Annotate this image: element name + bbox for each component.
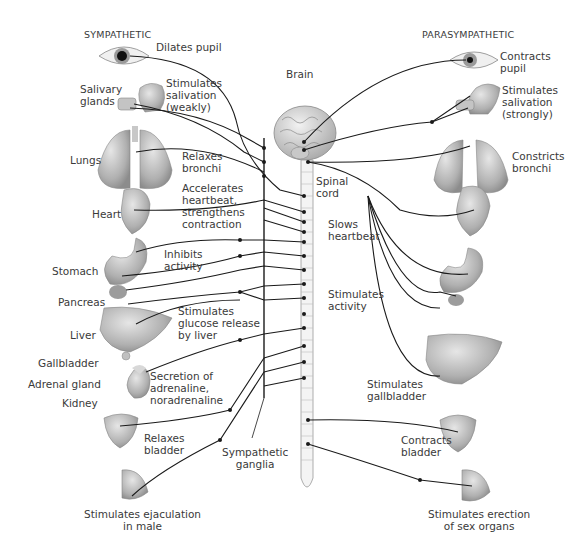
inhibits-activity-label: Inhibits activity — [164, 248, 203, 272]
brain-icon — [274, 106, 336, 160]
relaxes-bronchi-label: Relaxes bronchi — [182, 150, 222, 174]
heart-left-icon — [121, 189, 150, 234]
liver-label: Liver — [70, 329, 96, 341]
salivation-strongly-label: Stimulates salivation (strongly) — [502, 84, 558, 120]
sympathetic-header: SYMPATHETIC — [84, 29, 151, 40]
contracts-bladder-label: Contracts bladder — [401, 434, 452, 458]
spinal-cord-icon — [301, 160, 313, 487]
heart-label: Heart — [92, 208, 121, 220]
kidney-label: Kidney — [62, 397, 98, 409]
stomach-label: Stomach — [52, 265, 98, 277]
slows-heartbeat-label: Slows heartbeat — [328, 218, 380, 242]
liver-left-icon — [100, 307, 172, 360]
gallbladder-label: Gallbladder — [38, 357, 99, 369]
bladder-left-icon — [104, 414, 138, 448]
salivary-gland-right-icon — [456, 84, 500, 114]
sympathetic-ganglia-label: Sympathetic ganglia — [222, 446, 288, 470]
contracts-pupil-label: Contracts pupil — [500, 50, 551, 74]
stomach-right-icon — [440, 248, 483, 306]
lungs-left-icon — [98, 126, 172, 189]
heart-right-icon — [457, 186, 491, 236]
lungs-label: Lungs — [70, 154, 101, 166]
accelerates-heartbeat-label: Accelerates heartbeat, strengthens contr… — [182, 182, 245, 230]
relaxes-bladder-label: Relaxes bladder — [144, 432, 184, 456]
stimulates-gallbladder-label: Stimulates gallbladder — [367, 378, 426, 402]
salivary-gland-left-icon — [118, 83, 165, 112]
genitals-left-icon — [122, 470, 148, 499]
kidney-left-icon — [127, 365, 150, 398]
glucose-release-label: Stimulates glucose release by liver — [178, 305, 260, 341]
dilates-pupil-label: Dilates pupil — [156, 41, 222, 53]
stimulates-activity-label: Stimulates activity — [328, 288, 384, 312]
pancreas-label: Pancreas — [58, 296, 105, 308]
stimulates-ejaculation-label: Stimulates ejaculation in male — [84, 508, 201, 532]
constricts-bronchi-label: Constricts bronchi — [512, 150, 565, 174]
eye-left-icon — [99, 47, 149, 64]
adrenal-gland-label: Adrenal gland — [28, 378, 101, 390]
parasympathetic-header: PARASYMPATHETIC — [422, 29, 514, 40]
spinal-cord-label: Spinal cord — [316, 175, 348, 199]
autonomic-nervous-system-diagram: SYMPATHETIC PARASYMPATHETIC Brain Spinal… — [0, 0, 581, 557]
stomach-left-icon — [104, 238, 146, 299]
stimulates-erection-label: Stimulates erection of sex organs — [428, 508, 530, 532]
brain-label: Brain — [286, 68, 314, 80]
salivation-weakly-label: Stimulates salivation (weakly) — [166, 77, 222, 113]
lungs-right-icon — [434, 140, 508, 193]
salivary-glands-label: Salivary glands — [80, 83, 122, 107]
adrenaline-secretion-label: Secretion of adrenaline, noradrenaline — [150, 370, 223, 406]
